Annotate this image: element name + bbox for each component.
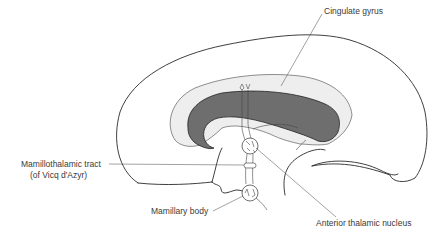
brainstem-right [284,149,325,195]
anterior-thalamic-nucleus [242,138,258,154]
brain-diagram [0,0,436,233]
label-anterior-thalamic-nucleus: Anterior thalamic nucleus [316,219,411,228]
hypothalamus-outline [212,182,246,193]
label-mamillary-body: Mamillary body [151,207,208,216]
leader-cingulate [281,14,322,86]
tract-marker [244,163,256,168]
mamillary-body [242,185,258,201]
label-cingulate-gyrus: Cingulate gyrus [324,7,383,16]
hemisphere-lower-left [138,182,212,185]
label-mamillothalamic-tract: Mamillothalamic tract [21,160,101,169]
label-vicq-dazyr: (of Vicq d'Azyr) [30,171,87,180]
leader-mamillothalamic [109,164,244,165]
fornix-tail [256,198,267,210]
leader-mamillary [213,196,243,211]
tract-lower [246,154,253,184]
